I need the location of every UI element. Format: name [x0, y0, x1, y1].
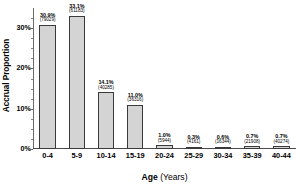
y-axis-title-label: Accrual Proportion [3, 38, 12, 111]
bar-count-label: (4161) [187, 140, 200, 145]
bar-count-label: (61183) [69, 9, 85, 14]
bars-layer: 30.9%(79029)33.1%(61183)14.1%(40285)11.0… [33, 8, 296, 149]
x-tick-label: 25-29 [179, 151, 208, 160]
bar-rect [127, 105, 143, 149]
x-tick-label: 40-44 [267, 151, 296, 160]
x-axis-title-unit: (Years) [160, 172, 187, 182]
bar-group: 1.0%(5944) [156, 8, 172, 149]
bar-count-label: (40285) [98, 86, 114, 91]
bar-rect [98, 92, 114, 149]
x-tick-label: 15-19 [121, 151, 150, 160]
plot-area: 30.9%(79029)33.1%(61183)14.1%(40285)11.0… [33, 8, 296, 149]
bar-group: 0.7%(40274) [273, 8, 289, 149]
bar-group: 0.6%(16344) [215, 8, 231, 149]
bar-rect [244, 146, 260, 149]
accrual-proportion-bar-chart: Accrual Proportion 0%10%20%30% 30.9%(790… [0, 0, 300, 196]
bar-value-label: 0.3%(4161) [187, 135, 200, 145]
x-tick-label: 35-39 [238, 151, 267, 160]
bar-value-label: 0.7%(21908) [244, 134, 260, 144]
y-axis-tick-labels: 0%10%20%30% [12, 0, 31, 196]
x-tick-label: 20-24 [150, 151, 179, 160]
x-tick-label: 0-4 [33, 151, 62, 160]
bar-group: 0.3%(4161) [186, 8, 202, 149]
bar-value-label: 0.7%(40274) [273, 134, 289, 144]
bar-group: 11.0%(36316) [127, 8, 143, 149]
x-axis-tick-labels: 0-45-910-1415-1920-2425-2930-3435-3940-4… [33, 151, 296, 165]
x-axis-title: Age (Years) [33, 172, 296, 182]
bar-rect [273, 146, 289, 149]
x-axis-title-main: Age [141, 172, 157, 182]
bar-value-label: 30.9%(79029) [40, 13, 56, 23]
bar-value-label: 14.1%(40285) [98, 80, 114, 90]
x-tick-label: 5-9 [62, 151, 91, 160]
bar-value-label: 33.1%(61183) [69, 4, 85, 14]
bar-rect [156, 145, 172, 149]
y-major-tick [29, 149, 33, 150]
bar-count-label: (21908) [244, 140, 260, 145]
bar-value-label: 11.0%(36316) [127, 93, 143, 103]
bar-count-label: (40274) [273, 140, 289, 145]
bar-group: 33.1%(61183) [69, 8, 85, 149]
bar-rect [39, 25, 55, 149]
bar-rect [186, 147, 202, 150]
x-tick-label: 10-14 [91, 151, 120, 160]
bar-value-label: 0.6%(16344) [215, 135, 231, 145]
bar-rect [215, 147, 231, 150]
x-tick-label: 30-34 [208, 151, 237, 160]
bar-group: 30.9%(79029) [39, 8, 55, 149]
bar-group: 0.7%(21908) [244, 8, 260, 149]
bar-count-label: (79029) [40, 18, 56, 23]
bar-count-label: (36316) [127, 98, 143, 103]
bar-count-label: (16344) [215, 140, 231, 145]
bar-value-label: 1.0%(5944) [158, 133, 171, 143]
bar-count-label: (5944) [158, 139, 171, 144]
bar-rect [69, 16, 85, 149]
bar-group: 14.1%(40285) [98, 8, 114, 149]
